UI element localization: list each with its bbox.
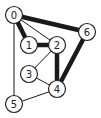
node-5: 5 (6, 96, 23, 113)
node-label: 2 (54, 40, 60, 51)
node-label: 5 (11, 99, 17, 110)
node-label: 3 (26, 69, 32, 80)
node-0: 0 (6, 7, 23, 24)
node-4: 4 (49, 81, 66, 98)
node-label: 0 (11, 10, 17, 21)
edge-0-6 (14, 15, 87, 32)
node-label: 1 (26, 40, 32, 51)
node-label: 6 (84, 27, 90, 38)
node-label: 4 (54, 84, 60, 95)
node-3: 3 (21, 66, 38, 83)
graph-diagram: 0123456 (0, 0, 101, 118)
node-6: 6 (79, 24, 96, 41)
node-2: 2 (49, 37, 66, 54)
node-1: 1 (21, 37, 38, 54)
